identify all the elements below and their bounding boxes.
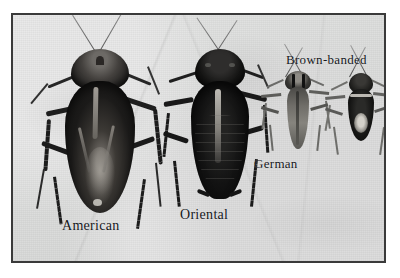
- leg-hind-right-german-tibia: [316, 125, 321, 151]
- wing-stripe-german: [296, 91, 299, 145]
- leg-hind-left-brown-banded-tibia: [333, 127, 339, 155]
- wing-highlight-american: [93, 87, 99, 139]
- leg-hind-left-oriental-tibia: [173, 161, 181, 207]
- specimen-american: [27, 15, 177, 241]
- leg-mid-right-brown-banded: [373, 93, 384, 98]
- pronotum-stripe-right-german: [302, 74, 305, 88]
- leg-front-left-brown-banded: [331, 81, 348, 91]
- pronotum-eye-right-oriental: [229, 63, 235, 67]
- leg-hind-right-brown-banded: [374, 105, 384, 113]
- pronotum-stripe-left-german: [292, 74, 295, 88]
- leg-mid-left-brown-banded: [325, 95, 345, 100]
- leg-mid-left-oriental: [163, 97, 193, 107]
- leg-front-left-german: [267, 79, 284, 88]
- label-brown-banded: Brown-banded: [286, 52, 367, 68]
- leg-mid-right-american-tibia: [153, 109, 163, 165]
- leg-hind-left-german-tibia: [269, 125, 274, 151]
- label-german: German: [254, 156, 298, 172]
- pronotum-eye-left-oriental: [205, 63, 211, 67]
- leg-front-left-oriental: [168, 71, 197, 83]
- pale-band-brown-banded: [350, 94, 372, 97]
- leg-hind-right-brown-banded-tibia: [379, 127, 384, 155]
- leg-mid-left-american-tarsus: [36, 169, 45, 209]
- pale-blotch-brown-banded: [354, 113, 368, 133]
- photo-frame: American Oriental German Brown-banded: [11, 13, 386, 263]
- leg-front-left-american-tibia: [30, 83, 48, 104]
- photo-canvas: American Oriental German Brown-banded: [13, 15, 384, 261]
- leg-mid-left-german: [261, 93, 281, 98]
- leg-front-right-american-tibia: [147, 66, 160, 95]
- wing-tip-spot-american: [93, 199, 102, 206]
- figure-page: American Oriental German Brown-banded: [0, 0, 400, 278]
- label-american: American: [62, 218, 120, 234]
- wing-sheen-american: [85, 147, 115, 205]
- leg-mid-right-american-tarsus: [155, 163, 162, 207]
- leg-hind-right-american-tibia: [136, 179, 146, 229]
- label-oriental: Oriental: [180, 207, 228, 223]
- pronotum-notch-american: [96, 56, 104, 65]
